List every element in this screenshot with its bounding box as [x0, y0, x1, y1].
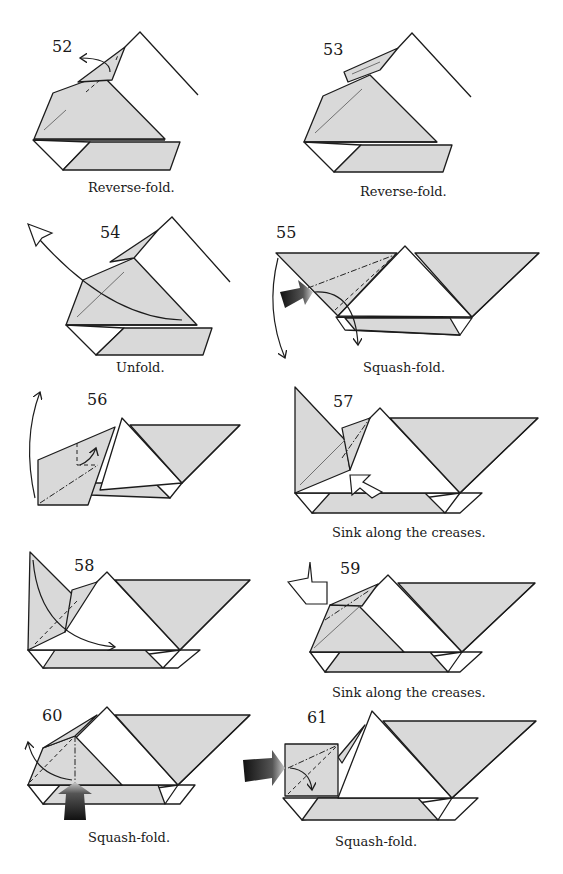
step-caption: Reverse-fold.: [360, 184, 447, 199]
step-number: 60: [42, 706, 62, 725]
step-53-diagram: [280, 0, 563, 210]
step-55-diagram: [260, 210, 563, 380]
step-56-diagram: [0, 380, 260, 540]
step-56: 56: [0, 380, 260, 540]
curved-arrow-icon: [273, 258, 285, 358]
step-59: 59 Sink along the creases.: [270, 540, 563, 700]
step-caption: Squash-fold.: [335, 834, 417, 849]
step-58-diagram: [0, 540, 270, 690]
step-caption: Squash-fold.: [363, 360, 445, 375]
step-caption: Sink along the creases.: [332, 685, 486, 700]
step-caption: Squash-fold.: [88, 830, 170, 845]
step-number: 54: [100, 223, 120, 242]
step-number: 59: [340, 559, 360, 578]
sink-arrow-icon: [288, 562, 327, 604]
step-54: 54 Unfold.: [0, 210, 260, 380]
step-caption: Reverse-fold.: [88, 180, 175, 195]
hollow-unfold-arrow-icon: [28, 224, 52, 246]
step-52-diagram: [0, 0, 280, 210]
push-arrow-icon: [243, 750, 285, 786]
step-number: 52: [52, 37, 72, 56]
step-61: 61 Squash-fold.: [230, 700, 563, 874]
step-52: 52 Reverse-fold.: [0, 0, 280, 210]
step-number: 53: [323, 40, 343, 59]
step-58: 58: [0, 540, 270, 690]
step-59-diagram: [270, 540, 563, 700]
step-number: 56: [87, 390, 107, 409]
step-57: 57 Sink along the creases.: [270, 380, 563, 540]
step-caption: Unfold.: [116, 360, 165, 375]
step-54-diagram: [0, 210, 260, 380]
step-53: 53 Reverse-fold.: [280, 0, 563, 210]
step-55: 55 Squash-fold.: [260, 210, 563, 380]
step-number: 61: [307, 708, 327, 727]
step-caption: Sink along the creases.: [332, 525, 486, 540]
step-number: 55: [276, 223, 296, 242]
step-number: 57: [333, 392, 353, 411]
step-57-diagram: [270, 380, 563, 540]
step-number: 58: [74, 556, 94, 575]
